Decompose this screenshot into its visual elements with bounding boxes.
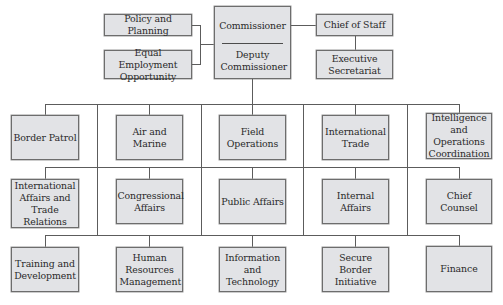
node-equal-employment-opportunity: Equal Employment Opportunity bbox=[104, 50, 192, 79]
node-executive-secretariat: Executive Secretariat bbox=[316, 50, 393, 79]
connector bbox=[192, 25, 200, 26]
connector bbox=[192, 64, 200, 65]
column-connector bbox=[407, 104, 408, 236]
node-field-operations: Field Operations bbox=[219, 115, 286, 160]
node-label: Equal Employment Opportunity bbox=[106, 47, 190, 83]
node-label: Intelligence and Operations Coordination bbox=[428, 112, 490, 160]
node-information-and-technology: Information and Technology bbox=[219, 247, 286, 292]
node-commissioner: Commissioner Deputy Commissioner bbox=[214, 6, 291, 79]
node-label: Chief Counsel bbox=[428, 190, 490, 214]
node-chief-counsel: Chief Counsel bbox=[426, 179, 492, 224]
drop-connector bbox=[45, 167, 46, 179]
drop-connector bbox=[45, 235, 46, 247]
node-border-patrol: Border Patrol bbox=[11, 115, 79, 160]
node-label: International Trade bbox=[325, 126, 387, 150]
drop-connector bbox=[149, 104, 150, 115]
drop-connector bbox=[252, 104, 253, 115]
column-connector bbox=[303, 104, 304, 236]
drop-connector bbox=[252, 235, 253, 247]
node-label: Secure Border Initiative bbox=[324, 252, 387, 288]
node-label: Internal Affairs bbox=[324, 190, 387, 214]
org-chart: Policy and Planning Equal Employment Opp… bbox=[0, 0, 503, 305]
drop-connector bbox=[252, 167, 253, 179]
node-label: Public Affairs bbox=[221, 196, 284, 208]
node-internal-affairs: Internal Affairs bbox=[322, 179, 389, 224]
node-label: Executive Secretariat bbox=[318, 53, 391, 77]
node-training-and-development: Training and Development bbox=[11, 247, 79, 292]
node-secure-border-initiative: Secure Border Initiative bbox=[322, 247, 389, 292]
node-congressional-affairs: Congressional Affairs bbox=[116, 179, 183, 224]
trunk-connector bbox=[252, 79, 253, 104]
drop-connector bbox=[355, 104, 356, 115]
column-connector bbox=[201, 104, 202, 236]
node-international-affairs-and-trade-relations: International Affairs and Trade Relation… bbox=[11, 179, 79, 228]
node-label: Field Operations bbox=[227, 126, 279, 150]
node-label: Air and Marine bbox=[118, 126, 181, 150]
node-label: Policy and Planning bbox=[106, 13, 190, 37]
node-human-resources-management: Human Resources Management bbox=[116, 247, 183, 292]
connector bbox=[291, 25, 316, 26]
node-label: International Affairs and Trade Relation… bbox=[13, 180, 77, 228]
column-connector bbox=[97, 104, 98, 236]
node-air-and-marine: Air and Marine bbox=[116, 115, 183, 160]
node-label: Training and Development bbox=[14, 258, 76, 282]
drop-connector bbox=[45, 104, 46, 115]
node-label: Information and Technology bbox=[221, 252, 284, 288]
commissioner-label: Commissioner bbox=[219, 20, 286, 32]
drop-connector bbox=[355, 235, 356, 247]
drop-connector bbox=[149, 235, 150, 247]
node-international-trade: International Trade bbox=[322, 115, 389, 160]
deputy-commissioner-label: Deputy Commissioner bbox=[221, 49, 285, 73]
node-policy-and-planning: Policy and Planning bbox=[104, 14, 192, 36]
node-finance: Finance bbox=[426, 246, 492, 292]
drop-connector bbox=[459, 167, 460, 179]
connector bbox=[200, 44, 214, 45]
node-label: Border Patrol bbox=[13, 132, 76, 144]
connector bbox=[200, 25, 201, 65]
node-chief-of-staff: Chief of Staff bbox=[316, 14, 393, 36]
node-label: Human Resources Management bbox=[120, 252, 180, 288]
node-public-affairs: Public Affairs bbox=[219, 179, 286, 224]
node-label: Finance bbox=[440, 263, 477, 275]
node-label: Chief of Staff bbox=[324, 19, 386, 31]
connector bbox=[355, 36, 356, 50]
drop-connector bbox=[149, 167, 150, 179]
drop-connector bbox=[355, 167, 356, 179]
node-label: Congressional Affairs bbox=[118, 190, 182, 214]
node-intelligence-and-operations-coordination: Intelligence and Operations Coordination bbox=[426, 113, 492, 159]
